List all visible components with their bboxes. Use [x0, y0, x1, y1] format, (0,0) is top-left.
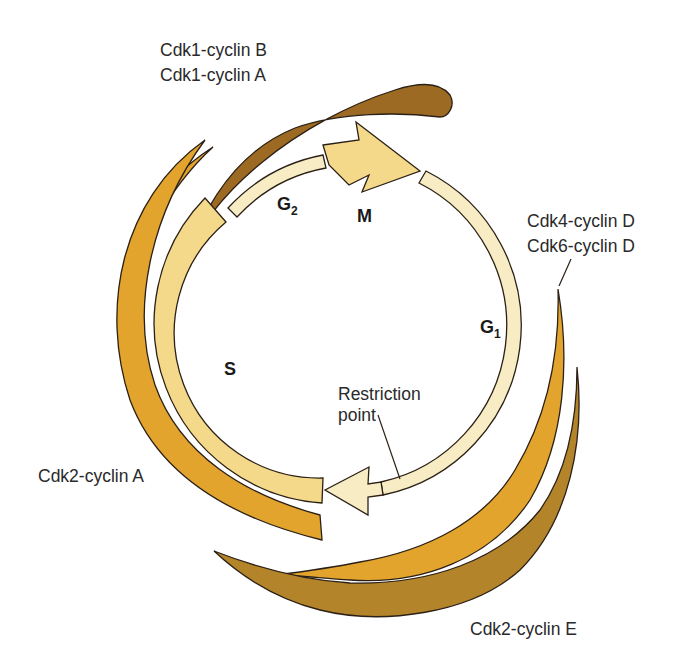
restriction-arrowhead — [325, 467, 383, 515]
cdk4-6-pointer-line — [559, 259, 571, 286]
restriction-point-label-line1: Restriction — [338, 384, 421, 404]
cell-cycle-diagram: G2 M G1 S Restriction point Cdk1-cyclin … — [0, 0, 686, 661]
phase-label-g1: G1 — [480, 317, 501, 341]
cdk2-cyclin-e-label: Cdk2-cyclin E — [470, 619, 577, 639]
cdk4-6-label-line1: Cdk4-cyclin D — [527, 211, 635, 231]
restriction-pointer-line — [378, 415, 400, 479]
phase-label-g2: G2 — [277, 194, 298, 218]
cdk2-cyclin-a-label: Cdk2-cyclin A — [38, 466, 144, 486]
m-phase-arrow — [323, 122, 420, 192]
cdk1-label-line1: Cdk1-cyclin B — [160, 40, 267, 60]
restriction-point-label-line2: point — [338, 405, 376, 425]
phase-label-s: S — [224, 359, 236, 379]
cdk4-6-label-line2: Cdk6-cyclin D — [527, 236, 635, 256]
cdk1-label-line2: Cdk1-cyclin A — [160, 65, 266, 85]
phase-label-m: M — [357, 206, 372, 226]
cdk1-cyclin-band — [183, 85, 452, 267]
